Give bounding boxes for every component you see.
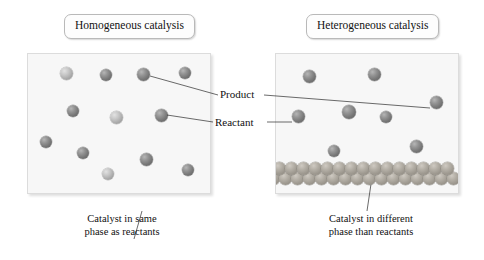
catalyst-bed-particle xyxy=(297,162,310,175)
label-reactant: Reactant xyxy=(215,117,253,128)
heterogeneous-caption-pointer xyxy=(367,184,371,211)
label-product: Product xyxy=(220,89,254,100)
caption-homogeneous: Catalyst in same phase as reactants xyxy=(52,213,192,239)
product-to-right-sphere xyxy=(264,95,430,108)
catalyst-bed-particle xyxy=(285,162,298,175)
caption-heterogeneous: Catalyst in different phase than reactan… xyxy=(296,213,446,239)
catalyst-bed-particle xyxy=(345,162,358,175)
product-to-left-sphere xyxy=(150,76,218,95)
catalyst-bed-particle xyxy=(309,162,322,175)
catalyst-bed-particle xyxy=(357,162,370,175)
catalyst-bed-particle xyxy=(333,162,346,175)
catalyst-bed-particle xyxy=(321,162,334,175)
catalyst-bed-particle xyxy=(369,162,382,175)
reactant-to-left-sphere xyxy=(167,115,213,122)
diagram-canvas: Homogeneous catalysis Heterogeneous cata… xyxy=(0,0,484,260)
